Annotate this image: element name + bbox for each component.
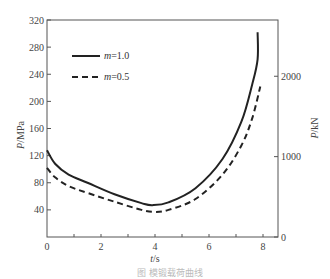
x-tick-label: 6 (207, 241, 212, 252)
y2-tick-label: 1000 (281, 151, 301, 162)
y-tick-label: 200 (29, 96, 44, 107)
series-line-m1 (47, 32, 258, 205)
x-axis-label: t/s (150, 253, 160, 264)
line-chart: 4080120160200240280320 010002000 02468 m… (0, 0, 330, 279)
x-tick-label: 4 (153, 241, 158, 252)
y-tick-label: 160 (29, 123, 44, 134)
y2-tick-label: 0 (281, 232, 286, 243)
figure-caption: 图 模锻载荷曲线 (137, 267, 203, 278)
y2-axis-label: P/kN (309, 117, 320, 139)
y-tick-label: 280 (29, 42, 44, 53)
x-tick-label: 8 (261, 241, 266, 252)
y-tick-label: 240 (29, 69, 44, 80)
y-tick-label: 320 (29, 15, 44, 26)
y-tick-label: 80 (34, 177, 44, 188)
series-lines (47, 32, 260, 212)
y-tick-label: 120 (29, 150, 44, 161)
y2-tick-label: 2000 (281, 71, 301, 82)
y-axis-ticks: 4080120160200240280320 (29, 15, 51, 216)
y-axis-label: P/MPa (15, 121, 26, 150)
x-tick-label: 2 (99, 241, 104, 252)
legend-label-m05: m=0.5 (104, 71, 129, 82)
legend: m=1.0 m=0.5 (72, 50, 129, 82)
y-tick-label: 40 (34, 204, 44, 215)
legend-label-m1: m=1.0 (104, 50, 129, 61)
x-tick-label: 0 (45, 241, 50, 252)
